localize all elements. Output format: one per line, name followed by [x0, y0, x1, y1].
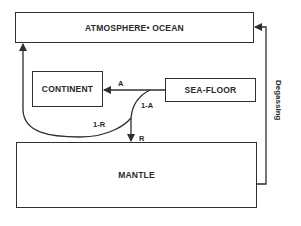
sea-floor-label: SEA-FLOOR	[185, 85, 237, 95]
mantle-label: MANTLE	[118, 170, 155, 180]
continent-box: CONTINENT	[32, 71, 103, 107]
atmosphere-ocean-box: ATMOSPHERE• OCEAN	[15, 12, 254, 43]
sea-floor-box: SEA-FLOOR	[165, 78, 256, 102]
flow-label-a: A	[118, 79, 123, 88]
atmosphere-ocean-label: ATMOSPHERE• OCEAN	[85, 23, 184, 33]
flow-label-r: R	[139, 134, 144, 143]
continent-label: CONTINENT	[42, 84, 93, 94]
flow-label-1-r: 1-R	[93, 120, 105, 129]
flow-label-degassing: Degassing	[274, 80, 283, 120]
flow-label-1-a: 1-A	[141, 101, 153, 110]
mantle-box: MANTLE	[16, 142, 257, 208]
